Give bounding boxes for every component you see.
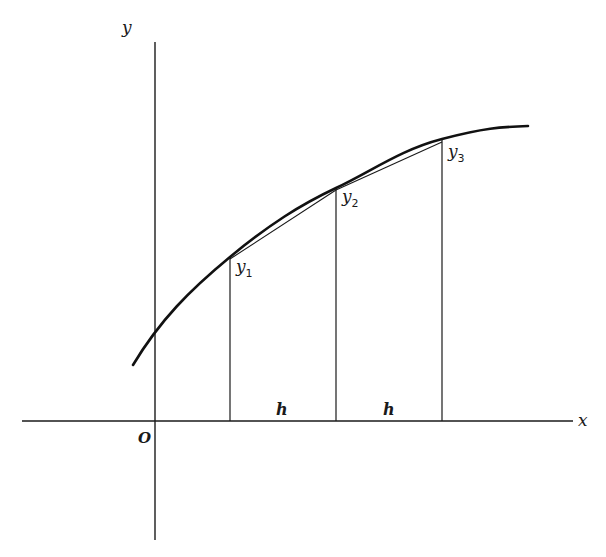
interval-label-h1: h [276,400,288,419]
origin-label: O [138,429,151,447]
label-y2: y2 [341,186,359,210]
chord-2-3 [336,142,442,190]
x-axis-label: x [578,410,588,430]
trapezoid-diagram: y x O y1 y2 y3 h h [0,0,606,557]
chord-1-2 [230,190,336,259]
label-y1: y1 [235,256,253,280]
label-y3: y3 [447,141,465,165]
y-axis-label: y [121,17,132,37]
function-curve [133,126,528,365]
interval-label-h2: h [383,400,395,419]
